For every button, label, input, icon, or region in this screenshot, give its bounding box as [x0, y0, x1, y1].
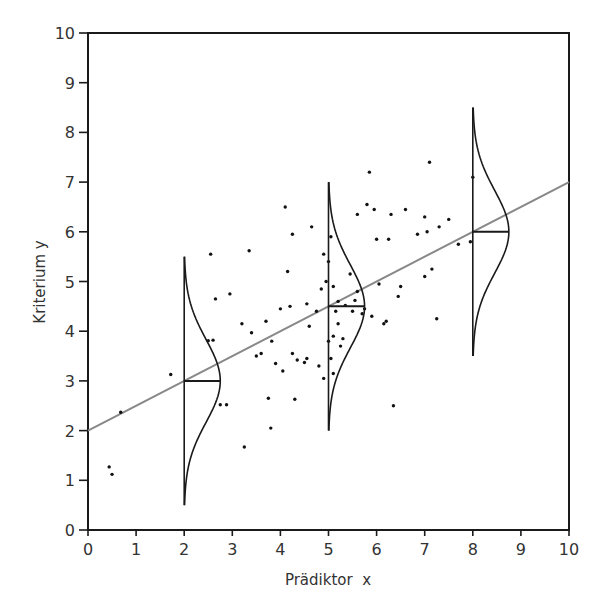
y-tick-label: 6 — [65, 223, 75, 242]
data-point — [437, 225, 440, 228]
y-tick-label: 0 — [65, 521, 75, 540]
data-point — [322, 252, 325, 255]
data-point — [228, 292, 231, 295]
data-point — [110, 473, 113, 476]
data-point — [329, 357, 332, 360]
data-point — [387, 238, 390, 241]
scatter-points — [107, 161, 474, 477]
y-tick-label: 1 — [65, 471, 75, 490]
data-point — [291, 352, 294, 355]
y-tick-label: 5 — [65, 273, 75, 292]
data-point — [317, 364, 320, 367]
distribution-8 — [473, 108, 509, 356]
data-point — [310, 225, 313, 228]
data-point — [279, 307, 282, 310]
data-point — [270, 339, 273, 342]
data-point — [293, 398, 296, 401]
regression-chart: 012345678910 012345678910 Prädiktor x Kr… — [0, 0, 609, 616]
data-point — [259, 352, 262, 355]
data-point — [457, 243, 460, 246]
x-tick-label: 2 — [179, 540, 189, 559]
data-point — [243, 445, 246, 448]
data-point — [382, 322, 385, 325]
data-point — [399, 285, 402, 288]
data-point — [339, 344, 342, 347]
data-point — [435, 317, 438, 320]
distribution-5 — [329, 182, 365, 431]
data-point — [341, 337, 344, 340]
y-tick-label: 2 — [65, 422, 75, 441]
x-tick-label: 6 — [372, 540, 382, 559]
data-point — [356, 290, 359, 293]
x-axis-label: Prädiktor x — [285, 571, 371, 589]
data-point — [469, 240, 472, 243]
data-point — [240, 322, 243, 325]
y-axis: 012345678910 — [55, 24, 88, 540]
data-point — [365, 203, 368, 206]
data-point — [372, 208, 375, 211]
data-point — [305, 302, 308, 305]
x-tick-label: 0 — [83, 540, 93, 559]
data-point — [209, 252, 212, 255]
data-point — [332, 334, 335, 337]
y-tick-label: 10 — [55, 24, 75, 43]
data-point — [281, 369, 284, 372]
data-point — [219, 403, 222, 406]
conditional-distributions — [184, 108, 509, 506]
data-point — [320, 287, 323, 290]
y-tick-label: 3 — [65, 372, 75, 391]
data-point — [284, 205, 287, 208]
x-axis: 012345678910 — [83, 530, 579, 559]
data-point — [377, 282, 380, 285]
x-tick-label: 9 — [516, 540, 526, 559]
x-tick-label: 1 — [131, 540, 141, 559]
data-point — [296, 358, 299, 361]
data-point — [250, 331, 253, 334]
data-point — [375, 238, 378, 241]
data-point — [214, 297, 217, 300]
data-point — [397, 295, 400, 298]
data-point — [308, 325, 311, 328]
data-point — [348, 272, 351, 275]
data-point — [332, 372, 335, 375]
data-point — [274, 362, 277, 365]
data-point — [305, 357, 308, 360]
data-point — [423, 215, 426, 218]
x-tick-label: 8 — [468, 540, 478, 559]
data-point — [428, 161, 431, 164]
data-point — [324, 280, 327, 283]
x-tick-label: 10 — [559, 540, 579, 559]
data-point — [353, 299, 356, 302]
data-point — [370, 315, 373, 318]
y-tick-label: 9 — [65, 74, 75, 93]
x-tick-label: 5 — [323, 540, 333, 559]
y-axis-label: Kriterium y — [31, 240, 49, 324]
y-tick-label: 4 — [65, 322, 75, 341]
data-point — [332, 285, 335, 288]
data-point — [169, 373, 172, 376]
data-point — [288, 305, 291, 308]
data-point — [211, 338, 214, 341]
data-point — [255, 354, 258, 357]
data-point — [329, 235, 332, 238]
data-point — [264, 320, 267, 323]
data-point — [389, 213, 392, 216]
data-point — [425, 230, 428, 233]
data-point — [119, 411, 122, 414]
y-tick-label: 7 — [65, 173, 75, 192]
data-point — [336, 300, 339, 303]
data-point — [334, 310, 337, 313]
data-point — [315, 310, 318, 313]
data-point — [291, 233, 294, 236]
data-point — [225, 403, 228, 406]
data-point — [267, 397, 270, 400]
distribution-2 — [184, 257, 220, 506]
data-point — [404, 208, 407, 211]
data-point — [247, 249, 250, 252]
data-point — [336, 322, 339, 325]
x-tick-label: 3 — [227, 540, 237, 559]
data-point — [447, 218, 450, 221]
data-point — [368, 170, 371, 173]
data-point — [423, 275, 426, 278]
data-point — [385, 320, 388, 323]
